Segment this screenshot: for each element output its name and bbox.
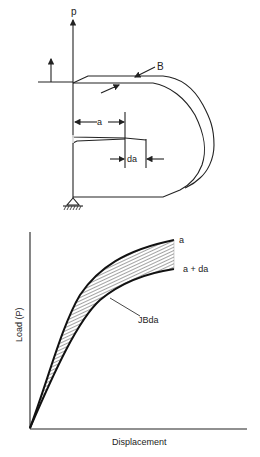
series-label-a: a — [179, 235, 184, 245]
y-axis-label: Load (P) — [14, 307, 24, 342]
deformed-outline — [73, 76, 214, 188]
fracture-diagram: p B a da a a + da JBda Displacement Load… — [0, 0, 260, 457]
jbda-leader — [110, 298, 140, 316]
x-axis-label: Displacement — [112, 437, 167, 447]
jbda-annotation: JBda — [138, 315, 159, 325]
series-label-a-plus-da: a + da — [183, 264, 208, 274]
crack-length-label: a — [97, 117, 102, 127]
inner-surface-arrow — [101, 85, 119, 93]
load-label: p — [71, 6, 77, 17]
pin-support-icon — [67, 198, 79, 205]
thickness-label: B — [157, 61, 164, 72]
load-displacement-chart — [30, 232, 247, 429]
crack-lower-edge — [73, 139, 125, 143]
energy-release-area — [30, 240, 174, 428]
specimen-diagram — [38, 20, 214, 210]
crack-increment-label: da — [127, 154, 137, 164]
